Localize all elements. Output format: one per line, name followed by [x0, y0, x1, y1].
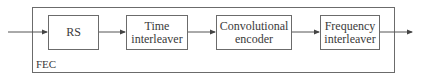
rs-label: RS: [66, 26, 81, 39]
convolutional-encoder-label-line2: encoder: [220, 33, 289, 46]
frequency-interleaver-label-line2: interleaver: [324, 33, 375, 46]
time-interleaver-label-line2: interleaver: [131, 33, 182, 46]
rs-block: RS: [48, 15, 99, 50]
convolutional-encoder-label-line1: Convolutional: [220, 20, 289, 33]
fec-label: FEC: [36, 58, 56, 70]
convolutional-encoder-block: Convolutional encoder: [216, 15, 292, 50]
time-interleaver-label-line1: Time: [131, 20, 182, 33]
frequency-interleaver-block: Frequency interleaver: [320, 15, 380, 50]
frequency-interleaver-label-line1: Frequency: [324, 20, 375, 33]
time-interleaver-block: Time interleaver: [126, 15, 188, 50]
